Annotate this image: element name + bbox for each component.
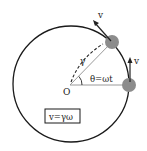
- velocity-label-top: v: [97, 10, 104, 20]
- velocity-label-right: v: [133, 56, 140, 66]
- particle-right: [122, 78, 136, 92]
- angle-arc: [79, 77, 82, 86]
- arrowhead-right-icon: [128, 57, 133, 63]
- formula-label: v=γω: [48, 112, 73, 122]
- arrowhead-top-icon: [93, 20, 99, 26]
- origin-label: O: [63, 87, 70, 97]
- radius-label: γ: [80, 56, 85, 66]
- circular-motion-diagram: v v γ θ=ωt O v=γω: [0, 0, 147, 151]
- angle-label: θ=ωt: [90, 74, 113, 84]
